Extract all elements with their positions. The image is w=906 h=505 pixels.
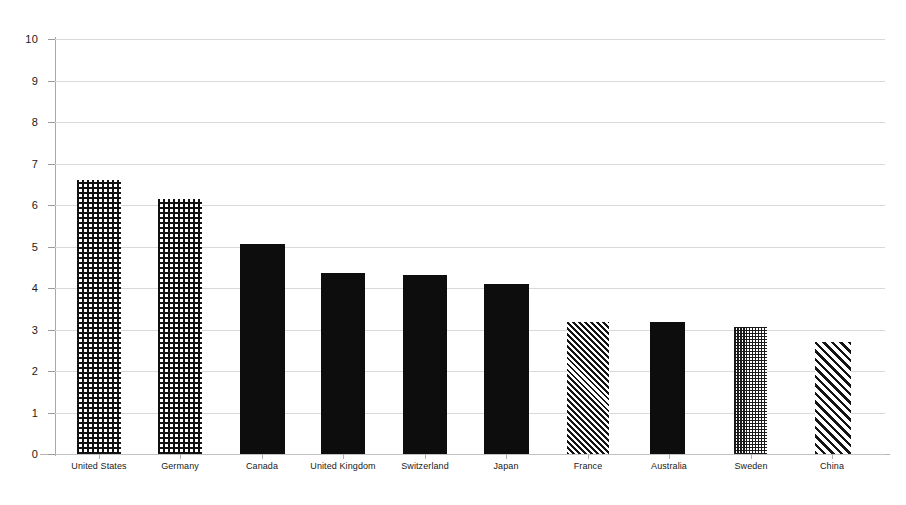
x-tick-7 bbox=[669, 454, 670, 459]
x-tick-1 bbox=[180, 454, 181, 459]
plot-area bbox=[55, 39, 885, 454]
y-tick-label-2: 2 bbox=[8, 365, 38, 377]
x-label-australia: Australia bbox=[651, 461, 687, 471]
x-tick-0 bbox=[99, 454, 100, 459]
chart-page: 10 9 8 7 6 5 4 3 2 1 0 bbox=[0, 0, 906, 505]
x-label-canada: Canada bbox=[246, 461, 278, 471]
x-tick-6 bbox=[588, 454, 589, 459]
bar-switzerland[interactable] bbox=[403, 275, 447, 454]
bar-germany[interactable] bbox=[158, 199, 202, 454]
x-tick-2 bbox=[262, 454, 263, 459]
y-tick-label-6: 6 bbox=[8, 199, 38, 211]
x-tick-5 bbox=[506, 454, 507, 459]
bar-canada[interactable] bbox=[240, 244, 285, 454]
y-tick-label-5: 5 bbox=[8, 241, 38, 253]
gridline-10 bbox=[55, 39, 885, 40]
x-label-united-kingdom: United Kingdom bbox=[310, 461, 375, 471]
x-label-japan: Japan bbox=[493, 461, 518, 471]
y-tick-label-9: 9 bbox=[8, 75, 38, 87]
x-label-switzerland: Switzerland bbox=[401, 461, 449, 471]
bar-france[interactable] bbox=[567, 322, 609, 454]
x-label-germany: Germany bbox=[161, 461, 199, 471]
bar-united-states[interactable] bbox=[77, 180, 121, 454]
x-tick-4 bbox=[425, 454, 426, 459]
x-tick-3 bbox=[343, 454, 344, 459]
x-label-sweden: Sweden bbox=[734, 461, 767, 471]
y-tick-label-3: 3 bbox=[8, 324, 38, 336]
x-label-united-states: United States bbox=[71, 461, 126, 471]
bar-united-kingdom[interactable] bbox=[321, 273, 365, 454]
gridline-8 bbox=[55, 122, 885, 123]
y-tick-label-8: 8 bbox=[8, 116, 38, 128]
bar-china[interactable] bbox=[815, 342, 851, 454]
bar-sweden[interactable] bbox=[734, 327, 767, 454]
y-tick-label-10: 10 bbox=[8, 33, 38, 45]
bar-australia[interactable] bbox=[650, 322, 685, 454]
gridline-9 bbox=[55, 81, 885, 82]
x-tick-9 bbox=[832, 454, 833, 459]
y-tick-label-1: 1 bbox=[8, 407, 38, 419]
bar-japan[interactable] bbox=[484, 284, 529, 454]
gridline-7 bbox=[55, 164, 885, 165]
y-tick-label-4: 4 bbox=[8, 282, 38, 294]
y-tick-label-7: 7 bbox=[8, 158, 38, 170]
x-label-france: France bbox=[574, 461, 603, 471]
x-tick-8 bbox=[751, 454, 752, 459]
x-label-china: China bbox=[820, 461, 844, 471]
y-tick-label-0: 0 bbox=[8, 448, 38, 460]
